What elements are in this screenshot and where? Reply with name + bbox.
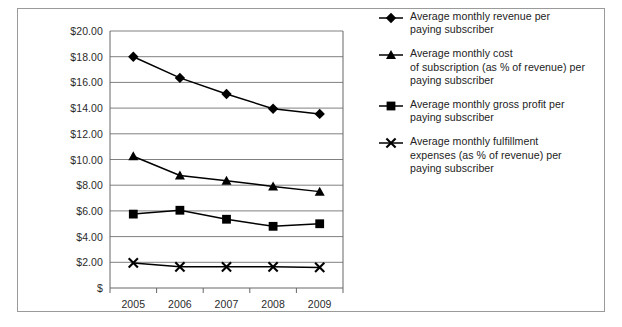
x-axis-tick-label: 2006 [168, 298, 192, 310]
y-axis-tick-label: $16.00 [55, 76, 103, 88]
x-axis-ticks [110, 288, 343, 293]
data-point-square [315, 219, 324, 228]
data-point-diamond [128, 52, 138, 62]
y-axis-tick-label: $10.00 [55, 154, 103, 166]
y-axis-tick-label: $8.00 [55, 179, 103, 191]
series-line [133, 57, 319, 114]
data-point-square [387, 102, 396, 111]
legend-item[interactable]: Average monthly fulfillmentexpenses (as … [378, 135, 596, 175]
y-axis-tick-label: $12.00 [55, 128, 103, 140]
legend-marker [378, 48, 404, 62]
series-layer [128, 52, 325, 273]
data-point-diamond [315, 109, 325, 119]
data-point-diamond [386, 13, 396, 23]
legend-item-label: Average monthly revenue perpaying subscr… [410, 10, 550, 36]
y-axis-tick-label: $2.00 [55, 256, 103, 268]
data-point-square [269, 222, 278, 231]
data-point-square [129, 210, 138, 219]
legend-marker [378, 136, 404, 150]
legend-item-label: Average monthly costof subscription (as … [410, 47, 585, 87]
data-point-square [176, 206, 185, 215]
data-point-triangle [175, 171, 185, 180]
data-point-diamond [175, 73, 185, 83]
legend-item[interactable]: Average monthly costof subscription (as … [378, 47, 596, 87]
chart-legend: Average monthly revenue perpaying subscr… [378, 10, 596, 186]
chart-figure: $20.00$18.00$16.00$14.00$12.00$10.00$8.0… [0, 0, 622, 327]
legend-marker [378, 99, 404, 113]
y-axis-tick-label: $6.00 [55, 205, 103, 217]
legend-marker [378, 11, 404, 25]
legend-item[interactable]: Average monthly revenue perpaying subscr… [378, 10, 596, 36]
data-point-diamond [221, 89, 231, 99]
y-axis-tick-label: $18.00 [55, 51, 103, 63]
x-axis-tick-label: 2008 [261, 298, 285, 310]
data-point-diamond [268, 104, 278, 114]
x-axis-tick-label: 2005 [121, 298, 145, 310]
legend-marker-x-icon [378, 136, 404, 150]
legend-item-label: Average monthly gross profit perpaying s… [410, 98, 565, 124]
series-3 [129, 206, 324, 231]
data-point-square [222, 215, 231, 224]
data-point-triangle [128, 151, 138, 160]
gridlines [110, 31, 343, 288]
y-axis-tick-label: $4.00 [55, 231, 103, 243]
legend-marker-square-icon [378, 99, 404, 113]
legend-item-label: Average monthly fulfillmentexpenses (as … [410, 135, 562, 175]
series-line [133, 156, 319, 191]
x-axis-tick-label: 2009 [308, 298, 332, 310]
x-axis-tick-label: 2007 [215, 298, 239, 310]
y-axis-tick-label: $ [55, 282, 103, 294]
series-4 [129, 258, 325, 272]
series-1 [128, 52, 325, 120]
y-axis-tick-label: $20.00 [55, 25, 103, 37]
legend-marker-triangle-icon [378, 48, 404, 62]
series-2 [128, 151, 324, 195]
legend-item[interactable]: Average monthly gross profit perpaying s… [378, 98, 596, 124]
y-axis-tick-label: $14.00 [55, 102, 103, 114]
legend-marker-diamond-icon [378, 11, 404, 25]
